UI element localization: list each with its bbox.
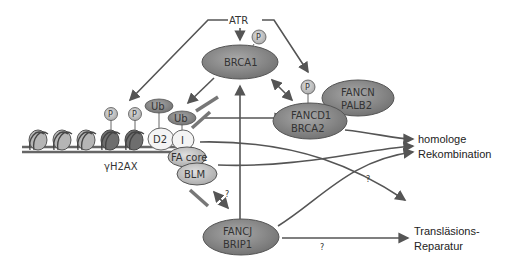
pathway-diagram: ? ? ? γH2AX: [0, 0, 512, 264]
fancj-label: FANCJ: [223, 226, 252, 237]
fancn-label: FANCN: [341, 87, 375, 98]
svg-text:P: P: [305, 83, 310, 92]
hr-label-line2: Rekombination: [418, 148, 491, 160]
svg-text:P: P: [108, 110, 113, 119]
fancj-to-hr-arrow: [278, 152, 413, 226]
brca1-to-ub-arrow: [188, 78, 214, 103]
fancd1-to-hr-arrow: [345, 130, 413, 139]
brip1-label: BRIP1: [223, 239, 252, 250]
core-to-hr-arrow: [218, 146, 413, 165]
svg-text:P: P: [256, 33, 261, 42]
dna-end-mark: [190, 190, 208, 206]
ub-label: Ub: [151, 101, 165, 112]
phospho-h2ax: P P: [105, 108, 142, 132]
hr-label-line1: homologe: [418, 133, 466, 145]
tls-label-line2: Reparatur: [414, 240, 463, 252]
palb2-label: PALB2: [341, 100, 372, 111]
ub-label: Ub: [174, 113, 188, 124]
brca1-label: BRCA1: [224, 57, 258, 68]
fa-core-label: FA core: [171, 152, 208, 163]
tls-label-line1: Transläsions-: [414, 225, 480, 237]
i-label: I: [181, 135, 184, 146]
fancd1-label: FANCD1: [291, 110, 331, 121]
question-label: ?: [320, 243, 324, 252]
brca2-label: BRCA2: [291, 123, 325, 134]
blm-label: BLM: [184, 169, 205, 180]
question-label: ?: [225, 190, 229, 199]
gamma-h2ax-label: γH2AX: [104, 161, 138, 172]
svg-text:P: P: [132, 110, 137, 119]
atr-label: ATR: [229, 15, 248, 26]
d2-label: D2: [153, 134, 167, 145]
dna-end-mark: [196, 97, 218, 111]
question-label: ?: [366, 175, 370, 184]
brca1-fancd1-arrow: [272, 80, 292, 100]
